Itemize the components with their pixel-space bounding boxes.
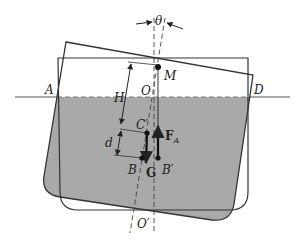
label-B: B <box>127 163 137 177</box>
label-D: D <box>253 83 264 97</box>
label-B-prime: B′ <box>161 163 174 177</box>
label-d: d <box>105 136 113 150</box>
label-C-prime: C′ <box>136 118 148 132</box>
label-O: O <box>141 84 151 98</box>
label-G: G <box>146 166 156 180</box>
gravity-arrow <box>146 133 147 163</box>
point-B <box>139 155 144 160</box>
label-theta: θ <box>155 14 163 28</box>
label-A: A <box>44 83 54 97</box>
label-O-prime: O′ <box>137 217 150 231</box>
label-H: H <box>113 91 125 105</box>
stability-diagram: θ M O A D H d C′ G B B′ FA O′ <box>0 0 302 244</box>
label-M: M <box>163 69 177 83</box>
